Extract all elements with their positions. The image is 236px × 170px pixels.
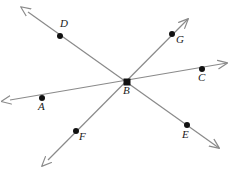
point-label-f: F: [79, 131, 86, 142]
diagram-svg: [0, 0, 236, 170]
point-label-d: D: [60, 18, 68, 29]
point-label-c: C: [198, 72, 205, 83]
point-label-e: E: [182, 129, 189, 140]
point-dot-g: [169, 31, 175, 37]
point-dot-d: [57, 33, 63, 39]
point-label-a: A: [38, 101, 45, 112]
point-label-g: G: [176, 34, 184, 45]
geometry-diagram: A B C D E F G: [0, 0, 236, 170]
line-ac: [10, 63, 227, 100]
point-label-b: B: [123, 85, 130, 96]
